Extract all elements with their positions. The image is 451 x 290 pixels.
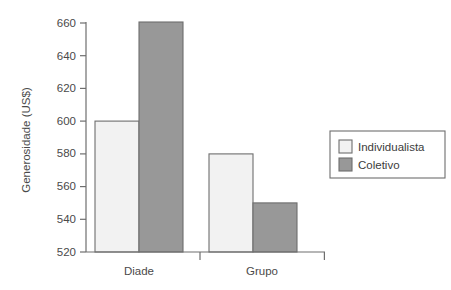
y-tick-label-600: 600 xyxy=(57,115,76,127)
bar-grupo-coletivo xyxy=(253,203,297,252)
x-category-label-grupo: Grupo xyxy=(246,265,278,277)
y-tick-label-580: 580 xyxy=(57,147,76,159)
legend: Individualista Coletivo xyxy=(330,131,445,178)
chart-canvas: Generosidade (US$) 660 640 620 600 580 5… xyxy=(0,0,451,290)
y-axis-title: Generosidade (US$) xyxy=(20,87,32,193)
x-category-label-diade: Diade xyxy=(124,265,154,277)
legend-item-coletivo[interactable]: Coletivo xyxy=(339,158,400,171)
bar-diade-coletivo xyxy=(139,22,183,252)
bar-chart: Generosidade (US$) 660 640 620 600 580 5… xyxy=(0,0,451,290)
bar-diade-individualista xyxy=(95,121,139,252)
y-tick-label-640: 640 xyxy=(57,50,76,62)
legend-label-coletivo: Coletivo xyxy=(358,159,400,171)
light-gray-swatch xyxy=(339,140,352,153)
y-tick-label-520: 520 xyxy=(57,246,76,258)
y-tick-label-660: 660 xyxy=(57,17,76,29)
legend-item-individualista[interactable]: Individualista xyxy=(339,140,425,153)
legend-label-individualista: Individualista xyxy=(358,141,425,153)
bar-grupo-individualista xyxy=(209,154,253,252)
y-tick-label-560: 560 xyxy=(57,180,76,192)
y-tick-label-620: 620 xyxy=(57,82,76,94)
y-tick-label-540: 540 xyxy=(57,213,76,225)
dark-gray-swatch xyxy=(339,158,352,171)
